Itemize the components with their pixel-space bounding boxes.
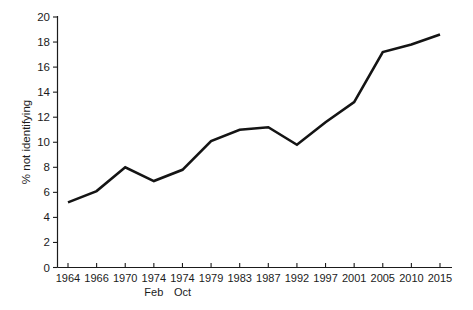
x-tick-label: 2005: [371, 272, 395, 284]
y-tick-label: 12: [37, 111, 50, 123]
y-tick-label: 14: [37, 86, 50, 98]
x-tick-label: 1983: [227, 272, 251, 284]
y-tick-label: 18: [37, 36, 50, 48]
y-tick-label: 8: [44, 161, 50, 173]
x-tick-label: 1979: [199, 272, 223, 284]
chart-container: 02468101214161820 1964196619701974Feb197…: [0, 0, 473, 310]
y-tick-label: 0: [44, 262, 50, 274]
x-sub-label: Oct: [174, 286, 191, 298]
x-tick-label: 2015: [428, 272, 452, 284]
y-tick-label: 16: [37, 61, 50, 73]
y-tick-label: 10: [37, 136, 50, 148]
x-tick-label: 2001: [342, 272, 366, 284]
y-axis-title: % not identifying: [20, 100, 32, 184]
y-tick-label: 2: [44, 236, 50, 248]
x-tick-label: 1970: [113, 272, 137, 284]
x-tick-label: 1964: [56, 272, 80, 284]
line-chart: 02468101214161820 1964196619701974Feb197…: [0, 0, 473, 310]
x-tick-label: 2010: [399, 272, 423, 284]
x-tick-label: 1997: [313, 272, 337, 284]
y-axis: 02468101214161820: [37, 11, 57, 274]
x-sub-label: Feb: [144, 286, 163, 298]
x-tick-label: 1987: [256, 272, 280, 284]
x-tick-label: 1992: [285, 272, 309, 284]
y-tick-label: 6: [44, 186, 50, 198]
x-tick-label: 1974: [142, 272, 166, 284]
x-tick-label: 1966: [84, 272, 108, 284]
series-line-not-identifying: [68, 35, 440, 203]
y-tick-label: 4: [44, 211, 51, 223]
x-axis: 1964196619701974Feb1974Oct19791983198719…: [56, 263, 452, 298]
y-tick-label: 20: [37, 11, 50, 23]
x-tick-label: 1974: [170, 272, 194, 284]
data-series: [68, 35, 440, 203]
